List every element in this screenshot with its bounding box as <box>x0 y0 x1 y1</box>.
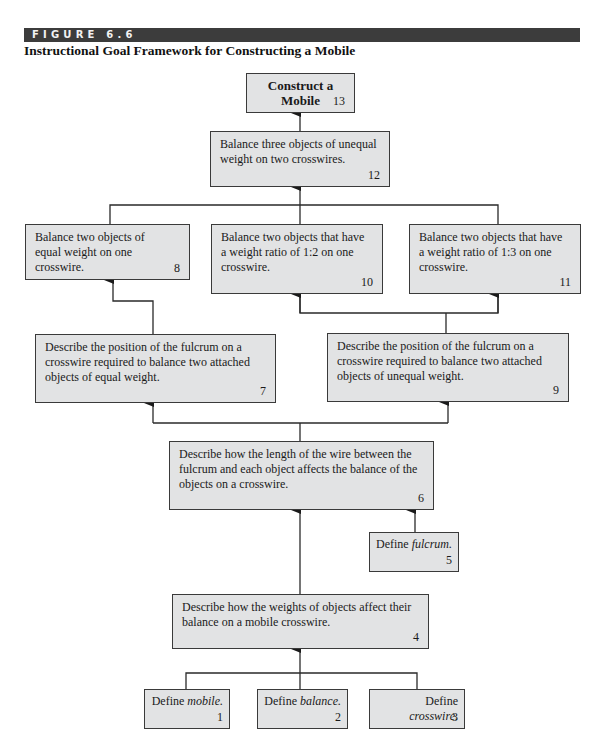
node-11-text: Balance two objects that have a weight r… <box>419 230 564 275</box>
node-5-term: fulcrum. <box>412 537 452 551</box>
node-12-number: 12 <box>368 168 380 182</box>
node-7: Describe the position of the fulcrum on … <box>35 334 276 403</box>
node-6: Describe how the length of the wire betw… <box>169 441 434 510</box>
node-10: Balance two objects that have a weight r… <box>211 224 383 294</box>
node-11: Balance two objects that have a weight r… <box>409 224 581 294</box>
node-12-text: Balance three objects of unequal weight … <box>220 137 381 167</box>
node-5: Define fulcrum. 5 <box>369 532 459 572</box>
node-1-prefix: Define <box>152 694 188 708</box>
node-8-text: Balance two objects of equal weight on o… <box>35 230 169 275</box>
node-9: Describe the position of the fulcrum on … <box>327 333 569 402</box>
node-7-number: 7 <box>260 384 266 398</box>
node-5-prefix: Define <box>376 537 412 551</box>
node-13: Construct a Mobile 13 <box>246 73 355 113</box>
node-9-text: Describe the position of the fulcrum on … <box>337 339 554 384</box>
node-13-number: 13 <box>333 94 345 108</box>
node-3: Define crosswire. 3 <box>369 689 465 729</box>
node-3-prefix: Define <box>425 694 458 708</box>
node-8: Balance two objects of equal weight on o… <box>25 224 190 280</box>
node-4: Describe how the weights of objects affe… <box>172 594 429 649</box>
node-7-text: Describe the position of the fulcrum on … <box>45 340 261 385</box>
node-4-text: Describe how the weights of objects affe… <box>182 600 414 630</box>
node-1-number: 1 <box>217 710 223 724</box>
node-1: Define mobile. 1 <box>144 689 230 729</box>
node-6-number: 6 <box>418 491 424 505</box>
node-8-number: 8 <box>174 261 180 275</box>
node-4-number: 4 <box>413 630 419 644</box>
node-9-number: 9 <box>553 383 559 397</box>
node-1-term: mobile. <box>187 694 223 708</box>
node-11-number: 11 <box>559 275 571 289</box>
node-3-term: crosswire. <box>409 709 458 723</box>
node-10-number: 10 <box>361 275 373 289</box>
node-6-text: Describe how the length of the wire betw… <box>179 447 419 492</box>
node-5-number: 5 <box>446 553 452 567</box>
node-2-number: 2 <box>335 710 341 724</box>
node-12: Balance three objects of unequal weight … <box>210 131 390 187</box>
node-2: Define balance. 2 <box>257 689 348 729</box>
node-3-number: 3 <box>452 710 458 724</box>
node-2-term: balance. <box>300 694 341 708</box>
node-2-prefix: Define <box>264 694 300 708</box>
node-10-text: Balance two objects that have a weight r… <box>221 230 366 275</box>
